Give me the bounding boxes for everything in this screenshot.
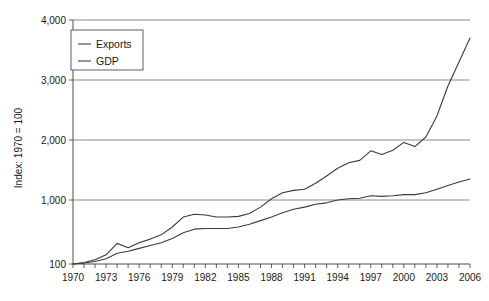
legend-label-exports: Exports xyxy=(96,38,132,50)
chart-canvas: 1970197319761979198219851988199119941997… xyxy=(0,0,489,301)
chart-legend: ExportsGDP xyxy=(71,30,143,70)
y-tick-label: 100 xyxy=(49,259,66,270)
x-tick-label: 2000 xyxy=(393,272,416,283)
y-axis-title: Index: 1970 = 100 xyxy=(13,107,24,188)
x-tick-label: 1970 xyxy=(62,272,85,283)
y-tick-label: 4,000 xyxy=(41,15,66,26)
y-axis-title-group: Index: 1970 = 100 xyxy=(13,107,24,188)
x-tick-label: 1997 xyxy=(360,272,383,283)
x-tick-label: 1982 xyxy=(194,272,217,283)
y-tick-label: 2,000 xyxy=(41,135,66,146)
y-tick-label: 3,000 xyxy=(41,75,66,86)
x-tick-label: 1988 xyxy=(260,272,283,283)
line-chart: 1970197319761979198219851988199119941997… xyxy=(0,0,489,301)
x-tick-label: 1973 xyxy=(95,272,118,283)
x-tick-label: 2006 xyxy=(459,272,482,283)
x-tick-label: 2003 xyxy=(426,272,449,283)
x-tick-label: 1976 xyxy=(128,272,151,283)
y-tick-label: 1,000 xyxy=(41,195,66,206)
x-tick-label: 1985 xyxy=(227,272,250,283)
x-tick-label: 1979 xyxy=(161,272,184,283)
x-tick-label: 1994 xyxy=(327,272,350,283)
x-tick-label: 1991 xyxy=(293,272,316,283)
legend-label-gdp: GDP xyxy=(96,55,119,67)
